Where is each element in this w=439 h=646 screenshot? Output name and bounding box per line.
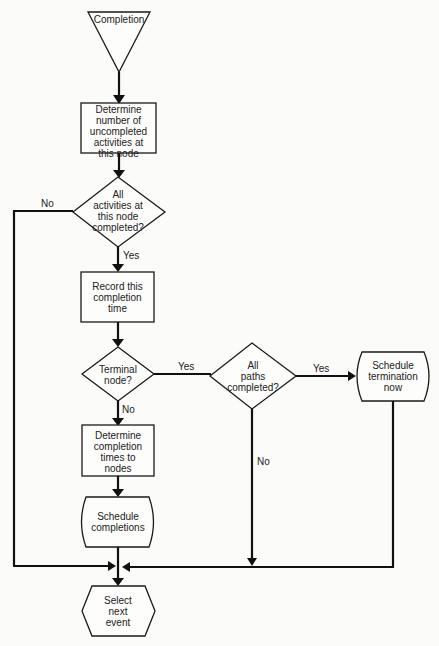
all-paths-label: All paths completed? <box>215 360 291 393</box>
all-activities-label: All activities at this node completed? <box>78 189 158 233</box>
flowchart-canvas <box>0 0 439 646</box>
completion-label: Completion <box>88 14 150 25</box>
schedule-completions-label: Schedule completions <box>80 511 156 533</box>
determine-times-label: Determine completion times to nodes <box>82 430 154 474</box>
edge-label-yes-paths: Yes <box>313 363 329 374</box>
edge-label-no-activities: No <box>41 198 54 209</box>
edge-label-yes-terminal: Yes <box>178 361 194 372</box>
determine-uncompleted-label: Determine number of uncompleted activiti… <box>81 104 156 159</box>
edge-label-no-terminal: No <box>122 404 135 415</box>
edge-label-no-paths: No <box>257 456 270 467</box>
select-next-label: Select next event <box>85 595 151 628</box>
terminal-node-label: Terminal node? <box>86 364 150 386</box>
edge-label-yes-activities: Yes <box>123 250 139 261</box>
record-time-label: Record this completion time <box>81 281 154 314</box>
schedule-termination-label: Schedule termination now <box>356 360 430 393</box>
